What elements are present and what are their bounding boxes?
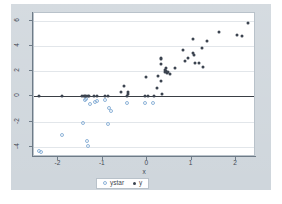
y-tick-label-0: -4	[13, 143, 20, 149]
y-tick-mark-2	[29, 95, 32, 96]
data-point-y	[201, 46, 204, 49]
data-point-y	[173, 67, 176, 70]
plot-canvas	[34, 13, 254, 155]
data-point-y	[246, 22, 249, 25]
x-tick-label-0: -2	[55, 159, 61, 166]
y-tick-mark-3	[29, 70, 32, 71]
open-circle-icon	[103, 181, 107, 185]
data-point-y	[159, 80, 162, 83]
gridline-y-4	[34, 46, 254, 47]
data-point-y	[205, 39, 208, 42]
data-point-y	[88, 95, 91, 98]
data-point-y	[37, 95, 40, 98]
data-point-y	[157, 75, 160, 78]
data-point-ystar	[60, 133, 64, 137]
data-point-ystar	[81, 121, 85, 125]
data-point-ystar	[86, 144, 90, 148]
y-tick-label-5: 6	[13, 18, 20, 22]
data-point-y	[235, 34, 238, 37]
chart-legend[interactable]: ystar y	[96, 178, 149, 189]
data-point-ystar	[88, 102, 92, 106]
legend-label-y: y	[139, 180, 142, 187]
data-point-y	[127, 91, 130, 94]
data-point-y	[147, 94, 150, 97]
x-axis-line	[33, 156, 256, 157]
data-point-y	[145, 76, 148, 79]
x-tick-label-1: -1	[99, 159, 105, 166]
filled-circle-icon	[133, 182, 136, 185]
data-point-ystar	[106, 122, 110, 126]
gridline-y-3	[34, 71, 254, 72]
data-point-y	[191, 37, 194, 40]
data-point-y	[161, 93, 164, 96]
screenshot-stage: -4-20246 -2-1012 x ystar y	[0, 0, 282, 204]
legend-item-y[interactable]: y	[133, 180, 142, 187]
data-point-y	[241, 34, 244, 37]
y-tick-label-1: -2	[13, 118, 20, 124]
data-point-y	[218, 30, 221, 33]
data-point-ystar	[151, 101, 155, 105]
y-tick-mark-5	[29, 20, 32, 21]
data-point-y	[187, 56, 190, 59]
plot-area	[33, 12, 255, 156]
y-tick-mark-4	[29, 45, 32, 46]
gridline-y-1	[34, 122, 254, 123]
legend-item-ystar[interactable]: ystar	[103, 180, 124, 187]
data-point-y	[123, 84, 126, 87]
y-tick-label-2: 0	[13, 94, 20, 98]
data-point-y	[181, 48, 184, 51]
legend-label-ystar: ystar	[110, 180, 124, 187]
data-point-y	[155, 86, 158, 89]
data-point-ystar	[95, 99, 99, 103]
data-point-ystar	[125, 101, 129, 105]
x-tick-label-4: 2	[233, 159, 237, 166]
x-axis-title: x	[142, 168, 145, 175]
data-point-y	[160, 63, 163, 66]
data-point-y	[169, 72, 172, 75]
data-point-y	[96, 95, 99, 98]
y-tick-mark-1	[29, 121, 32, 122]
y-tick-mark-0	[29, 146, 32, 147]
data-point-ystar	[109, 109, 113, 113]
x-tick-label-3: 1	[189, 159, 193, 166]
data-point-ystar	[103, 98, 107, 102]
gridline-y-0	[34, 147, 254, 148]
data-point-ystar	[143, 101, 147, 105]
data-point-y	[60, 95, 63, 98]
data-point-ystar	[39, 150, 43, 154]
data-point-y	[193, 53, 196, 56]
data-point-y	[103, 95, 106, 98]
data-point-ystar	[85, 139, 89, 143]
gridline-y-5	[34, 21, 254, 22]
y-axis-line	[32, 12, 33, 157]
x-tick-label-2: 0	[144, 159, 148, 166]
data-point-y	[197, 62, 200, 65]
data-point-y	[153, 94, 156, 97]
y-tick-label-3: 2	[13, 68, 20, 72]
data-point-y	[183, 60, 186, 63]
data-point-y	[119, 90, 122, 93]
data-point-y	[194, 61, 197, 64]
data-point-y	[107, 95, 110, 98]
data-point-y	[202, 66, 205, 69]
data-point-y	[143, 94, 146, 97]
data-point-y	[159, 57, 162, 60]
y-tick-label-4: 4	[13, 43, 20, 47]
